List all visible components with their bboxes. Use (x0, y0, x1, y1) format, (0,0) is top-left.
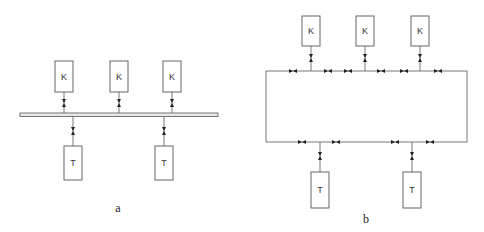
svg-text:T: T (70, 158, 76, 168)
svg-text:K: K (417, 26, 423, 36)
svg-text:K: K (308, 26, 314, 36)
connector-a-t (73, 117, 164, 147)
node-k-a2: K (110, 61, 128, 92)
valve-icon (318, 152, 414, 160)
node-k-b3: K (411, 16, 429, 46)
valve-icon (71, 127, 166, 135)
node-k-a1: K (55, 61, 73, 92)
svg-text:T: T (317, 185, 323, 195)
connector-b-k (311, 46, 420, 71)
diagram-canvas: K K K T T (0, 0, 484, 232)
node-t-a1: T (64, 146, 82, 180)
diagram-b: K K K (266, 16, 467, 226)
svg-text:K: K (169, 72, 175, 82)
svg-text:K: K (61, 72, 67, 82)
svg-text:T: T (409, 185, 415, 195)
node-t-b2: T (403, 172, 421, 208)
node-t-b1: T (311, 172, 329, 208)
connector-a-k (64, 92, 172, 113)
bus-bar (20, 113, 218, 117)
connector-b-t (320, 142, 412, 172)
svg-text:K: K (362, 26, 368, 36)
node-k-b1: K (302, 16, 320, 46)
node-k-a3: K (163, 61, 181, 92)
svg-text:K: K (116, 72, 122, 82)
valve-icon (62, 99, 174, 107)
node-t-a2: T (155, 146, 173, 180)
ring-loop (266, 71, 467, 142)
svg-text:T: T (161, 158, 167, 168)
caption-a: a (115, 201, 121, 215)
caption-b: b (363, 212, 369, 226)
node-k-b2: K (356, 16, 374, 46)
valve-icon (309, 54, 422, 62)
diagram-a: K K K T T (20, 61, 218, 215)
